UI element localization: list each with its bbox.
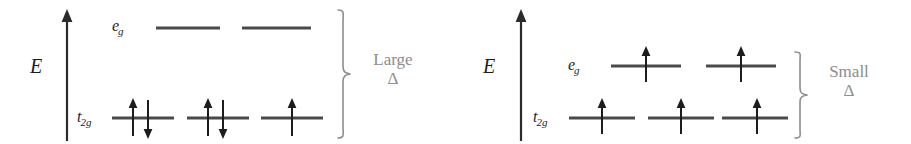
electron-up: [642, 46, 651, 82]
level-label-eg-high-spin: eg: [568, 57, 581, 73]
electron-up: [737, 46, 746, 82]
splitting-symbol-high-spin: Δ: [813, 81, 885, 100]
splitting-brace-low-spin: [334, 8, 354, 140]
electron-up: [753, 98, 762, 134]
energy-axis-high-spin: [510, 0, 532, 144]
level-label-eg-low-spin: eg: [112, 18, 125, 34]
energy-axis-label-high-spin: E: [483, 56, 495, 76]
orbital-set-t2g-low-spin: [110, 96, 325, 142]
splitting-word-low-spin: Large: [358, 50, 428, 69]
splitting-caption-low-spin: Large Δ: [358, 50, 428, 88]
crystal-field-splitting-figure: E eg t2g: [0, 0, 911, 144]
orbital-set-eg-high-spin: [607, 44, 787, 90]
panel-low-spin: E eg t2g: [0, 0, 455, 144]
electron-up: [598, 98, 607, 134]
electron-up: [677, 98, 686, 134]
splitting-symbol-low-spin: Δ: [358, 69, 428, 88]
orbital-set-eg-low-spin: [150, 14, 325, 42]
energy-axis-label-low-spin: E: [30, 56, 42, 76]
splitting-brace-high-spin: [791, 50, 811, 140]
splitting-caption-high-spin: Small Δ: [813, 62, 885, 100]
level-label-t2g-low-spin: t2g: [77, 109, 92, 125]
level-label-t2g-high-spin: t2g: [533, 109, 548, 125]
level-label-t2g-high-spin-sub: 2g: [536, 116, 547, 128]
splitting-word-high-spin: Small: [813, 62, 885, 81]
orbital-set-t2g-high-spin: [567, 96, 789, 142]
panel-high-spin: E eg t2g: [455, 0, 911, 144]
level-label-eg-low-spin-sub: g: [118, 25, 124, 37]
energy-axis-low-spin: [56, 0, 78, 144]
level-label-t2g-low-spin-sub: 2g: [80, 116, 91, 128]
level-label-eg-high-spin-sub: g: [574, 64, 580, 76]
